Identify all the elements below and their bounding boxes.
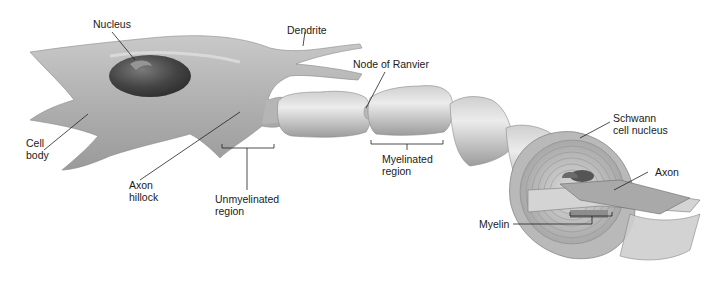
label-node-of-ranvier: Node of Ranvier: [353, 58, 429, 70]
label-axon-hillock-line2: hillock: [129, 191, 158, 203]
label-myelinated-line2: region: [382, 165, 411, 177]
label-dendrite: Dendrite: [287, 24, 327, 36]
label-nucleus: Nucleus: [93, 18, 131, 30]
label-myelin: Myelin: [479, 218, 509, 230]
label-axon: Axon: [655, 166, 679, 178]
axon-cross-section: [510, 132, 700, 260]
label-cell-body-line2: body: [26, 149, 49, 161]
label-schwann-line1: Schwann: [613, 112, 656, 124]
neuron-diagram: Nucleus Dendrite Node of Ranvier Cell bo…: [0, 0, 720, 283]
label-myelinated-line1: Myelinated: [382, 153, 433, 165]
label-unmyelinated-line2: region: [215, 205, 244, 217]
neuron-illustration: [0, 0, 720, 283]
label-unmyelinated-line1: Unmyelinated: [215, 193, 279, 205]
label-cell-body-line1: Cell: [26, 137, 44, 149]
label-axon-hillock-line1: Axon: [129, 179, 153, 191]
nucleus-shape: [109, 55, 191, 97]
label-schwann-line2: cell nucleus: [613, 124, 668, 136]
